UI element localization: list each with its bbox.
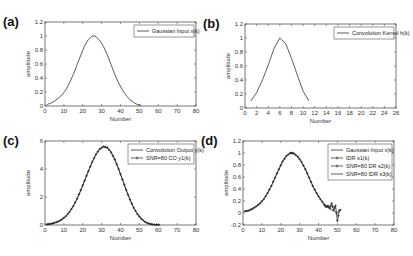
- x-tick-label: 30: [98, 227, 105, 233]
- x-tick-label: 60: [353, 227, 360, 233]
- x-tick-label: 20: [79, 227, 86, 233]
- x-tick-label: 24: [381, 110, 388, 116]
- x-tick-label: 20: [79, 108, 86, 114]
- x-tick-label: 50: [136, 108, 143, 114]
- y-tick-label: 0.6: [233, 174, 242, 180]
- y-tick-label: -0.2: [231, 222, 242, 228]
- y-tick-label: 2: [40, 194, 44, 200]
- y-tick-label: 0.4: [233, 186, 242, 192]
- x-tick-label: 10: [259, 227, 266, 233]
- panel-b: (b)0246810121416182022242600.20.40.60.81…: [203, 16, 410, 124]
- y-tick-label: 4: [40, 166, 44, 172]
- x-tick-label: 18: [346, 110, 353, 116]
- y-tick-label: 6: [40, 138, 44, 144]
- x-tick-label: 70: [174, 108, 181, 114]
- x-tick-label: 40: [117, 108, 124, 114]
- y-tick-label: 1.2: [235, 21, 244, 27]
- y-tick-label: 1.2: [233, 138, 242, 144]
- x-tick-label: 0: [43, 227, 47, 233]
- y-tick-label: 0.8: [235, 49, 244, 55]
- x-tick-label: 4: [267, 110, 271, 116]
- x-tick-label: 26: [393, 110, 400, 116]
- y-tick-label: 0.2: [233, 198, 242, 204]
- x-tick-label: 70: [372, 227, 379, 233]
- x-tick-label: 50: [136, 227, 143, 233]
- y-axis-label: amplitude: [223, 169, 229, 196]
- x-axis-label: Number: [308, 235, 329, 241]
- x-tick-label: 14: [323, 110, 330, 116]
- x-tick-label: 20: [277, 227, 284, 233]
- x-tick-label: 2: [255, 110, 259, 116]
- x-tick-label: 12: [311, 110, 318, 116]
- y-tick-label: 0.2: [235, 91, 244, 97]
- x-tick-label: 80: [193, 227, 200, 233]
- x-axis-label: Number: [110, 235, 131, 241]
- panel-label: (b): [203, 16, 220, 31]
- x-tick-label: 16: [335, 110, 342, 116]
- x-tick-label: 10: [300, 110, 307, 116]
- legend-label: Convolution Kernel h(k): [352, 30, 410, 36]
- x-tick-label: 40: [315, 227, 322, 233]
- legend-label: SNR=80 IDR s3(k): [346, 171, 392, 177]
- y-tick-label: 0.2: [35, 89, 44, 95]
- x-tick-label: 70: [174, 227, 181, 233]
- legend-label: SNR=80 CO y1(k): [146, 155, 191, 161]
- x-tick-label: 0: [43, 108, 47, 114]
- x-tick-label: 80: [391, 227, 398, 233]
- x-tick-label: 30: [98, 108, 105, 114]
- x-tick-label: 0: [241, 227, 245, 233]
- legend-label: Gaussian Input x(k): [346, 147, 394, 153]
- legend-label: Gaussian Input x(k): [152, 28, 200, 34]
- x-axis-label: Number: [110, 116, 131, 122]
- x-tick-label: 50: [334, 227, 341, 233]
- x-tick-label: 0: [243, 110, 247, 116]
- y-tick-label: 1: [40, 33, 44, 39]
- y-tick-label: 0: [238, 210, 242, 216]
- y-tick-label: 0.4: [35, 75, 44, 81]
- series-line: [251, 38, 309, 101]
- legend-label: IDR s1(k): [346, 155, 369, 161]
- legend: Convolution Output y(k)SNR=80 CO y1(k): [128, 144, 204, 164]
- y-tick-label: 1.2: [35, 19, 44, 25]
- x-tick-label: 60: [155, 227, 162, 233]
- series-line: [47, 36, 141, 105]
- y-axis-label: amplitude: [25, 169, 31, 196]
- legend-label: Convolution Output y(k): [146, 147, 204, 153]
- y-tick-label: 1: [238, 150, 242, 156]
- panel-label: (d): [201, 133, 218, 148]
- y-tick-label: 0.6: [235, 63, 244, 69]
- x-tick-label: 30: [296, 227, 303, 233]
- x-tick-label: 20: [358, 110, 365, 116]
- x-tick-label: 8: [290, 110, 294, 116]
- y-tick-label: 1: [240, 35, 244, 41]
- y-tick-label: 0.8: [233, 162, 242, 168]
- y-tick-label: 0.4: [235, 77, 244, 83]
- panel-d: (d)01020304050607080-0.200.20.40.60.811.…: [201, 133, 398, 241]
- legend: Gaussian Input x(k)IDR s1(k)SNR=80 DR s2…: [328, 144, 394, 180]
- legend: Gaussian Input x(k): [134, 25, 200, 37]
- x-tick-label: 6: [278, 110, 282, 116]
- panel-c: (c)010203040506070800246NumberamplitudeC…: [3, 133, 204, 241]
- panel-label: (a): [3, 14, 19, 29]
- y-tick-label: 0.6: [35, 61, 44, 67]
- y-tick-label: 0.8: [35, 47, 44, 53]
- figure: (a)0102030405060708000.20.40.60.811.2Num…: [0, 0, 413, 256]
- x-tick-label: 60: [155, 108, 162, 114]
- x-tick-label: 80: [193, 108, 200, 114]
- y-axis-label: amplitude: [25, 50, 31, 77]
- x-tick-label: 22: [369, 110, 376, 116]
- x-axis-label: Number: [310, 118, 331, 124]
- x-tick-label: 40: [117, 227, 124, 233]
- series-line: [245, 153, 341, 221]
- y-axis-label: amplitude: [225, 52, 231, 79]
- x-tick-label: 10: [61, 108, 68, 114]
- panel-a: (a)0102030405060708000.20.40.60.811.2Num…: [3, 14, 200, 122]
- legend: Convolution Kernel h(k): [334, 27, 410, 39]
- legend-label: SNR=80 DR s2(k): [346, 163, 390, 169]
- x-tick-label: 10: [61, 227, 68, 233]
- panel-label: (c): [3, 133, 19, 148]
